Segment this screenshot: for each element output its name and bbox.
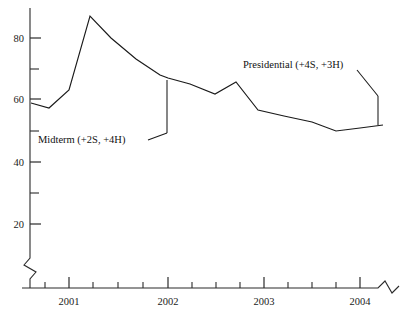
series-approval-rating [31, 16, 383, 131]
annotation-midterm: Midterm (+2S, +4H) [38, 80, 167, 146]
y-axis-label-40: 40 [14, 157, 25, 168]
x-axis-label-2003: 2003 [254, 296, 275, 307]
x-axis: 2001 2002 2003 2004 [22, 277, 399, 307]
y-axis-label-80: 80 [14, 33, 25, 44]
x-axis-label-2004: 2004 [350, 296, 372, 307]
midterm-annotation-label: Midterm (+2S, +4H) [38, 134, 126, 146]
presidential-annotation-label: Presidential (+4S, +3H) [243, 59, 344, 71]
presidential-leader-line [357, 70, 378, 96]
x-axis-label-2001: 2001 [59, 296, 80, 307]
y-axis-label-60: 60 [14, 94, 25, 105]
chart-container: 80 60 40 20 2001 2002 [0, 0, 405, 313]
annotation-presidential: Presidential (+4S, +3H) [243, 59, 378, 125]
x-axis-label-2002: 2002 [158, 296, 179, 307]
y-axis-label-20: 20 [14, 219, 25, 230]
line-chart-plot: 80 60 40 20 2001 2002 [0, 0, 405, 313]
x-axis-spine [22, 281, 399, 293]
y-axis-spine [24, 8, 36, 288]
y-axis: 80 60 40 20 [14, 8, 42, 288]
midterm-leader-line [148, 133, 167, 140]
